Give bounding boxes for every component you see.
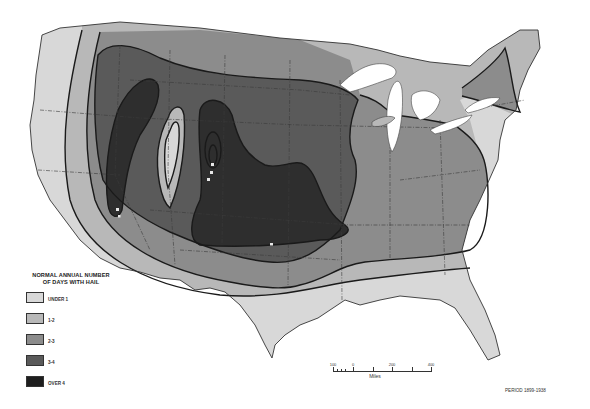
scale-tick xyxy=(337,369,338,372)
legend-title-line1: NORMAL ANNUAL NUMBER xyxy=(16,272,126,279)
scale-label: 100 xyxy=(330,362,337,367)
legend-label: UNDER 1 xyxy=(48,297,68,302)
legend-swatch-3-4 xyxy=(26,355,44,366)
legend: NORMAL ANNUAL NUMBER OF DAYS WITH HAIL U… xyxy=(16,272,126,286)
scale-tick xyxy=(353,367,354,372)
legend-swatch-2-3 xyxy=(26,334,44,345)
legend-swatch-1-2 xyxy=(26,313,44,324)
legend-title-line2: OF DAYS WITH HAIL xyxy=(16,279,126,286)
legend-swatch-under-1 xyxy=(26,292,44,303)
legend-label: 1-2 xyxy=(48,318,55,323)
legend-label: 3-4 xyxy=(48,360,55,365)
map-fill-regions xyxy=(0,0,590,409)
legend-label: 2-3 xyxy=(48,339,55,344)
scale-tick xyxy=(392,367,393,372)
scale-label: 400 xyxy=(428,362,435,367)
scale-unit: Miles xyxy=(369,373,381,379)
scale-tick xyxy=(431,367,432,372)
legend-swatch-over-4 xyxy=(26,376,44,387)
scale-bar: 100 0 200 400 Miles xyxy=(325,362,440,382)
scale-tick xyxy=(341,369,342,372)
scale-tick xyxy=(373,367,374,372)
scale-tick xyxy=(412,367,413,372)
scale-line xyxy=(333,371,431,372)
period-label: PERIOD 1899-1938 xyxy=(505,388,546,393)
hail-days-map xyxy=(0,0,590,409)
scale-tick xyxy=(345,369,346,372)
scale-label: 0 xyxy=(352,362,354,367)
scale-tick xyxy=(333,367,334,372)
legend-label: OVER 4 xyxy=(48,381,65,386)
scale-label: 200 xyxy=(389,362,396,367)
